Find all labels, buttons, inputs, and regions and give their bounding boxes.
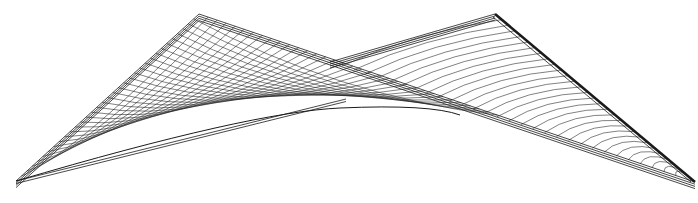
- right-ruling: [390, 42, 529, 82]
- left-ruling: [48, 32, 253, 151]
- right-ruling: [521, 104, 602, 125]
- left-ruling: [32, 23, 226, 166]
- right-ruling: [342, 20, 502, 66]
- hypar-roof-svg: [0, 0, 698, 203]
- right-ruling: [580, 131, 635, 144]
- left-ruling: [27, 20, 217, 171]
- long-diagonal-beam: [199, 18, 695, 186]
- right-ruling: [592, 136, 641, 148]
- right-ruling: [533, 109, 609, 128]
- right-ridge-beam-inner: [493, 17, 691, 182]
- edge-beams: [16, 14, 695, 189]
- right-ruling: [557, 120, 622, 136]
- right-upper-beam: [330, 20, 495, 68]
- right-ruling: [378, 36, 522, 77]
- left-ruling: [43, 29, 244, 156]
- right-ruling: [497, 92, 588, 116]
- right-upper-beam: [330, 16, 495, 64]
- right-ruling: [461, 76, 568, 106]
- right-ruling: [437, 64, 555, 97]
- right-ridge-beam: [495, 14, 695, 182]
- right-ruling: [413, 53, 541, 89]
- long-diagonal-beam: [199, 16, 695, 184]
- right-ruling: [449, 70, 561, 101]
- left-ridge-beam: [16, 14, 199, 181]
- right-ruling: [568, 126, 628, 141]
- long-diagonal-beam: [199, 14, 695, 182]
- long-diagonal-beam: [199, 21, 695, 189]
- right-ruling: [616, 147, 655, 157]
- right-upper-beam: [330, 18, 495, 66]
- left-lower-edge: [16, 107, 460, 181]
- roof-drawing: [0, 0, 698, 203]
- left-ridge-beam: [16, 21, 199, 188]
- left-ruling: [59, 39, 271, 142]
- right-ruling: [366, 31, 515, 74]
